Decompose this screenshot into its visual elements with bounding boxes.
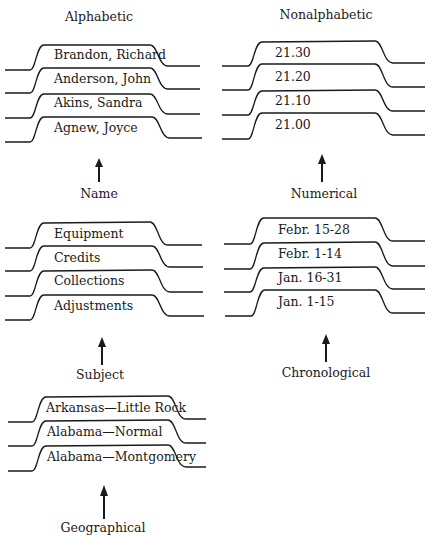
tab-label: 21.10	[275, 93, 311, 108]
heading-nonalphabetic: Nonalphabetic	[256, 7, 396, 22]
tab-outline	[222, 90, 425, 115]
tab-label: Collections	[54, 273, 125, 288]
caption-chronological: Chronological	[256, 365, 396, 380]
tab-outline	[222, 41, 425, 66]
tab-outline	[5, 246, 203, 271]
tab-label: Anderson, John	[54, 71, 151, 86]
tab-label: Akins, Sandra	[54, 95, 143, 110]
tab-label: Brandon, Richard	[54, 47, 166, 62]
tab-outline	[222, 113, 425, 139]
arrow-up-icon	[98, 337, 106, 347]
caption-name: Name	[29, 186, 169, 201]
arrow-up-icon	[318, 154, 326, 164]
tab-label: Febr. 15-28	[278, 222, 350, 237]
tab-label: 21.20	[275, 69, 311, 84]
tab-label: 21.30	[275, 45, 311, 60]
tab-label: Febr. 1-14	[278, 246, 342, 261]
tab-label: Jan. 1-15	[278, 294, 335, 309]
heading-alphabetic: Alphabetic	[29, 9, 169, 24]
arrow-up-icon	[95, 158, 103, 167]
tab-label: 21.00	[275, 117, 311, 132]
caption-geographical: Geographical	[33, 520, 173, 535]
caption-subject: Subject	[30, 367, 170, 382]
arrow-up-icon	[100, 485, 108, 496]
tab-label: Arkansas—Little Rock	[46, 400, 186, 415]
tab-label: Alabama—Normal	[47, 424, 162, 439]
tab-label: Agnew, Joyce	[54, 120, 138, 135]
tab-label: Jan. 16-31	[278, 270, 343, 285]
tab-label: Credits	[54, 250, 100, 265]
tab-label: Adjustments	[54, 298, 133, 313]
caption-numerical: Numerical	[254, 186, 394, 201]
tab-label: Alabama—Montgomery	[47, 449, 196, 464]
arrow-up-icon	[322, 334, 330, 344]
tab-label: Equipment	[54, 226, 124, 241]
tab-outline	[222, 64, 425, 90]
